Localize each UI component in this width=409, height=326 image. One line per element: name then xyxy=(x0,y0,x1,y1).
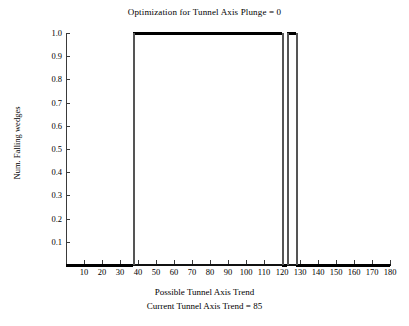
y-tick-label: 0.5 xyxy=(18,145,62,154)
data-transition-edge xyxy=(287,33,289,265)
y-tick-label: 0.7 xyxy=(18,99,62,108)
x-tick xyxy=(390,260,391,264)
data-transition-edge xyxy=(296,33,298,265)
x-tick-label: 180 xyxy=(379,268,401,277)
y-tick-label: 0.6 xyxy=(18,122,62,131)
y-tick-label: 1.0 xyxy=(18,29,62,38)
y-tick-label: 0.1 xyxy=(18,238,62,247)
data-transition-edge xyxy=(282,33,284,265)
data-plateau-high xyxy=(133,32,282,35)
plot-area xyxy=(66,33,390,265)
y-tick-label: 0.9 xyxy=(18,52,62,61)
y-axis-title: Num. Falling wedges xyxy=(12,78,22,208)
data-plateau-zero xyxy=(66,264,133,267)
chart-subcaption: Current Tunnel Axis Trend = 85 xyxy=(0,301,409,311)
data-plateau-zero xyxy=(296,264,390,267)
data-transition-edge xyxy=(133,33,135,265)
y-tick-label: 0.8 xyxy=(18,75,62,84)
chart-figure: Optimization for Tunnel Axis Plunge = 0 … xyxy=(0,0,409,326)
y-tick-label: 0.2 xyxy=(18,215,62,224)
y-tick-label: 0.4 xyxy=(18,168,62,177)
y-tick-label-group: 0.10.20.30.40.50.60.70.80.91.0 xyxy=(0,0,62,326)
y-tick-label: 0.3 xyxy=(18,191,62,200)
x-axis-title: Possible Tunnel Axis Trend xyxy=(0,287,409,297)
